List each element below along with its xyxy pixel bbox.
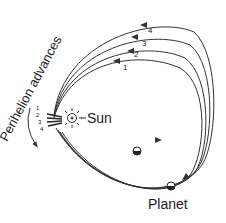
- perihelion-markers: [47, 114, 62, 126]
- orbit-label-2: 2: [134, 50, 139, 59]
- arrow-icon: [131, 34, 138, 40]
- planet-label: Planet: [148, 196, 188, 212]
- orbit-3: [54, 39, 210, 188]
- planet-icon: [133, 147, 141, 155]
- perihelion-labels: 1 2 3 4: [36, 105, 44, 132]
- perihelion-diagram: 1 2 3 4 1 2 3 4 Sun Planet: [0, 0, 226, 223]
- orbit-label-4: 4: [148, 26, 153, 35]
- advance-direction-arrow: [28, 108, 36, 145]
- orbit-label-3: 3: [142, 39, 147, 48]
- sun-label: Sun: [87, 110, 112, 126]
- orbit-1: [54, 60, 202, 189]
- arrow-icon: [140, 22, 147, 28]
- orbit-label-1: 1: [123, 63, 128, 72]
- perihelion-label-2: 2: [36, 112, 40, 118]
- perihelion-label-3: 3: [38, 119, 42, 125]
- orbit-direction-arrows: [113, 22, 190, 180]
- planet-icon: [167, 182, 175, 190]
- perihelion-label-4: 4: [40, 126, 44, 132]
- sun-icon: [65, 108, 82, 128]
- perihelion-label-1: 1: [36, 105, 40, 111]
- perihelion-advances-label: Perihelion advances: [0, 33, 65, 144]
- perihelion-advances-label-group: Perihelion advances: [0, 33, 65, 144]
- arrow-icon: [155, 137, 162, 143]
